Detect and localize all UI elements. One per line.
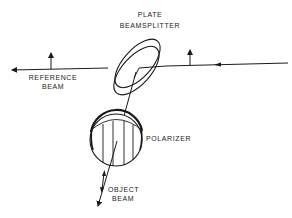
diagram-drawing (0, 0, 292, 218)
reference-label-line1: REFERENCE (28, 73, 78, 82)
beamsplitter-icon (103, 32, 171, 102)
object-label-line1: OBJECT (108, 185, 138, 194)
object-label-line2: BEAM (108, 194, 138, 203)
diagram-canvas: PLATE BEAMSPLITTER REFERENCE BEAM POLARI… (0, 0, 292, 218)
beamsplitter-label: BEAMSPLITTER (118, 21, 182, 30)
incoming-arrowhead-icon (214, 63, 221, 67)
plate-label: PLATE (130, 10, 170, 19)
polarizer-icon (90, 110, 143, 166)
reference-label-line2: BEAM (28, 82, 78, 91)
horizontal-beam (12, 63, 288, 70)
polarizer-label: POLARIZER (146, 134, 194, 143)
